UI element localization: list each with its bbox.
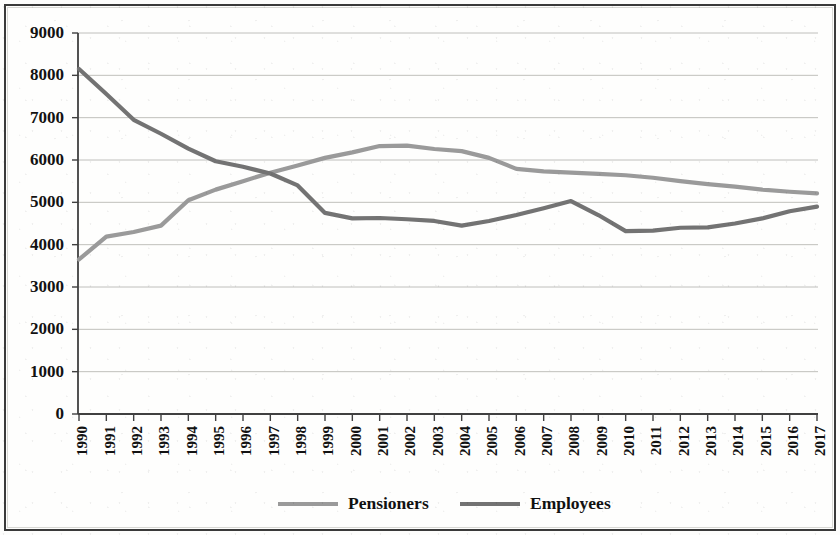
x-tick-label: 2007 <box>539 426 555 457</box>
line-chart: 9000800070006000500040003000200010000 19… <box>0 0 840 535</box>
chart-svg: 9000800070006000500040003000200010000 19… <box>0 0 840 535</box>
y-tick-label: 5000 <box>30 192 64 211</box>
x-tick-label: 1999 <box>320 426 336 456</box>
x-tick-label: 2001 <box>375 426 391 456</box>
x-axis-tick-labels: 1990199119921993199419951996199719981999… <box>74 426 828 457</box>
x-tick-label: 1994 <box>184 426 200 457</box>
y-tick-label: 1000 <box>30 362 64 381</box>
x-tick-label: 2000 <box>348 426 364 456</box>
x-tick-label: 2003 <box>430 426 446 456</box>
x-tick-label: 2013 <box>703 426 719 456</box>
y-tick-label: 2000 <box>30 319 64 338</box>
x-axis-tick-marks <box>79 414 817 421</box>
x-tick-label: 2012 <box>676 426 692 456</box>
y-tick-label: 3000 <box>30 277 64 296</box>
x-tick-label: 2002 <box>402 426 418 456</box>
y-tick-label: 4000 <box>30 235 64 254</box>
y-tick-label: 7000 <box>30 108 64 127</box>
y-axis-tick-labels: 9000800070006000500040003000200010000 <box>30 23 64 423</box>
x-tick-label: 1992 <box>129 426 145 456</box>
x-tick-label: 2009 <box>594 426 610 456</box>
x-tick-label: 1998 <box>293 426 309 456</box>
legend-label-employees[interactable]: Employees <box>530 493 611 513</box>
x-tick-label: 2011 <box>648 426 664 455</box>
x-tick-label: 2015 <box>758 426 774 456</box>
x-tick-label: 2005 <box>484 426 500 456</box>
legend-label-pensioners[interactable]: Pensioners <box>348 493 429 513</box>
y-tick-label: 9000 <box>30 23 64 42</box>
x-tick-label: 1996 <box>238 426 254 457</box>
chart-screenshot: 9000800070006000500040003000200010000 19… <box>0 0 840 535</box>
y-tick-label: 8000 <box>30 65 64 84</box>
x-tick-label: 2004 <box>457 426 473 457</box>
x-tick-label: 1993 <box>156 426 172 456</box>
x-tick-label: 2010 <box>621 426 637 456</box>
x-tick-label: 2008 <box>566 426 582 456</box>
x-tick-label: 2017 <box>812 426 828 457</box>
x-tick-label: 1991 <box>102 426 118 456</box>
x-tick-label: 1995 <box>211 426 227 456</box>
x-tick-label: 1997 <box>266 426 282 457</box>
x-tick-label: 2016 <box>785 426 801 457</box>
chart-legend: PensionersEmployees <box>278 493 611 513</box>
x-tick-label: 2014 <box>730 426 746 457</box>
data-series-group <box>79 69 817 260</box>
x-tick-label: 2006 <box>512 426 528 457</box>
y-tick-label: 6000 <box>30 150 64 169</box>
x-tick-label: 1990 <box>74 426 90 456</box>
y-tick-label: 0 <box>56 404 65 423</box>
